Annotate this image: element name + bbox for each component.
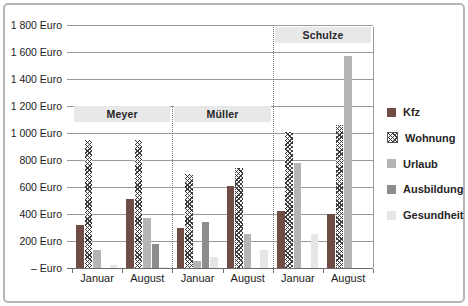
bar-urlaub-1 [143,218,151,268]
x-axis-tick [223,269,224,273]
bar-wohnung-5 [336,125,344,268]
group-band-meyer: Meyer [74,106,170,122]
bar-urlaub-5 [344,56,352,268]
y-axis-label: 1 000 Euro [6,128,62,139]
legend-item-gesundheit: Gesundheit [387,209,464,221]
gridline [67,133,373,134]
bar-gesundheit-0 [110,265,118,268]
x-axis-tick [122,269,123,273]
y-axis-label: 1 200 Euro [6,101,62,112]
legend-label: Ausbildung [403,183,464,195]
x-axis-label-august-1: August [122,272,172,284]
bar-kfz-3 [227,186,235,268]
gridline [67,79,373,80]
bar-kfz-1 [126,199,134,268]
gridline [67,160,373,161]
group-separator [273,27,274,268]
gridline [67,268,373,269]
group-separator [172,106,173,268]
legend-swatch-urlaub [387,159,396,168]
legend-item-ausbildung: Ausbildung [387,183,464,195]
legend-label: Urlaub [403,158,438,170]
y-axis-label: 600 Euro [6,182,62,193]
bar-wohnung-3 [235,168,243,268]
y-axis-label: 1 600 Euro [6,47,62,58]
bar-chart-figure: 1 800 Euro1 600 Euro1 400 Euro1 200 Euro… [0,0,468,306]
x-axis-label-august-3: August [223,272,273,284]
bar-urlaub-3 [244,234,252,268]
legend-item-urlaub: Urlaub [387,158,438,170]
bar-kfz-4 [277,211,285,268]
gridline [67,52,373,53]
bar-ausbildung-2 [202,222,210,268]
x-axis-tick [373,269,374,273]
gridline [67,25,373,26]
y-axis-label: 400 Euro [6,209,62,220]
y-axis-label: 800 Euro [6,155,62,166]
y-axis-label: – Euro [6,263,62,274]
bar-ausbildung-1 [152,244,160,268]
plot-right-border [373,27,374,268]
x-axis-label-august-5: August [323,272,373,284]
legend-label: Kfz [403,106,420,118]
y-axis-label: 1 800 Euro [6,20,62,31]
x-axis-tick [172,269,173,273]
x-axis-tick [72,269,73,273]
x-axis-tick [323,269,324,273]
x-axis-label-januar-4: Januar [273,272,323,284]
x-axis-label-januar-0: Januar [72,272,122,284]
group-band-schulze: Schulze [275,27,371,43]
legend-swatch-wohnung [387,132,398,143]
bar-wohnung-2 [185,174,193,269]
bar-urlaub-2 [193,261,201,268]
legend-label: Wohnung [405,132,456,144]
bar-wohnung-0 [85,140,93,268]
bar-wohnung-4 [285,132,293,268]
bar-urlaub-4 [294,163,302,268]
bar-wohnung-1 [135,140,143,268]
gridline [67,187,373,188]
bar-kfz-0 [76,225,84,268]
bar-kfz-5 [327,214,335,268]
legend-swatch-kfz [387,108,396,117]
x-axis-tick [273,269,274,273]
y-axis-label: 200 Euro [6,236,62,247]
x-axis-label-januar-2: Januar [173,272,223,284]
legend-swatch-gesundheit [387,211,396,220]
legend-item-wohnung: Wohnung [387,132,456,144]
bar-urlaub-0 [93,250,101,268]
legend-item-kfz: Kfz [387,106,420,118]
legend-swatch-ausbildung [387,185,396,194]
y-axis-label: 1 400 Euro [6,74,62,85]
bar-gesundheit-4 [311,234,319,268]
group-band-mller: Müller [174,106,270,122]
bar-gesundheit-1 [160,267,168,268]
bar-kfz-2 [177,228,185,269]
bar-gesundheit-2 [210,257,218,268]
legend-label: Gesundheit [403,209,464,221]
bar-gesundheit-3 [260,250,268,268]
